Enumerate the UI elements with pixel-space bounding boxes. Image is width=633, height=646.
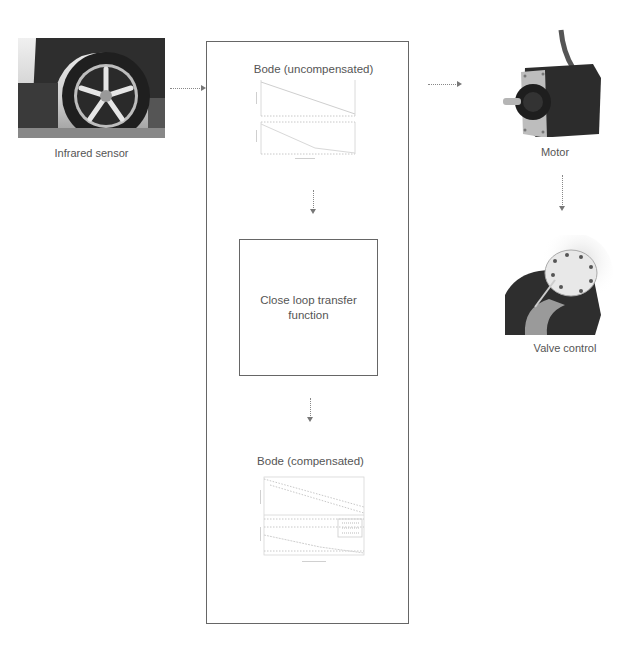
motor-label: Motor	[520, 146, 590, 158]
arrow-controller-to-motor	[428, 84, 458, 85]
closed-loop-transfer-function-box: Close loop transfer function	[239, 239, 378, 376]
bode-uncompensated-chart	[255, 78, 365, 160]
arrow-closed-loop-to-bode-compensated	[310, 398, 311, 418]
infrared-sensor-node	[18, 38, 165, 138]
bode-compensated-title: Bode (compensated)	[243, 455, 378, 467]
bode-uncompensated-title: Bode (uncompensated)	[246, 63, 381, 75]
arrow-bode-to-closed-loop	[313, 190, 314, 210]
arrow-motor-to-valve	[562, 175, 563, 207]
bode-compensated-chart	[260, 475, 370, 570]
valve-node	[505, 235, 615, 335]
motor-node	[503, 22, 603, 137]
arrow-sensor-to-controller	[170, 88, 202, 89]
car-wheel-icon	[18, 38, 165, 138]
stepper-motor-icon	[503, 22, 603, 137]
valve-icon	[505, 235, 615, 335]
valve-control-label: Valve control	[515, 342, 615, 354]
infrared-sensor-label: Infrared sensor	[18, 147, 165, 159]
